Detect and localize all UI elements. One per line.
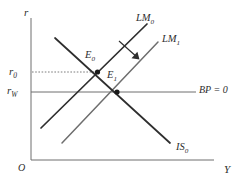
curve-label-lm0: LM0 xyxy=(136,13,154,26)
point-label-e1: E1 xyxy=(107,70,117,83)
curve-lm1-subscript: 1 xyxy=(177,39,181,47)
point-e1 xyxy=(114,89,119,94)
point-e1-subscript: 1 xyxy=(113,75,117,83)
y-tick-rw-subscript: W xyxy=(11,90,17,99)
is0-curve xyxy=(55,38,170,143)
bp-zero-label: BP = 0 xyxy=(199,85,228,95)
curve-lm1-base: LM xyxy=(162,33,177,44)
x-axis-label: Y xyxy=(224,164,230,175)
curve-is0-subscript: 0 xyxy=(185,147,189,155)
point-e0-subscript: 0 xyxy=(91,55,95,63)
is-lm-bp-diagram: r Y O r0 rW LM0 LM1 IS0 E0 E1 BP = 0 xyxy=(0,0,240,185)
y-tick-r0-subscript: 0 xyxy=(13,71,17,80)
curve-label-lm1: LM1 xyxy=(162,34,180,47)
y-axis-label: r xyxy=(24,7,28,18)
y-tick-label-rw: rW xyxy=(7,85,18,99)
y-tick-label-r0: r0 xyxy=(9,66,17,80)
curve-lm0-subscript: 0 xyxy=(151,18,155,26)
origin-label: O xyxy=(18,163,25,173)
point-label-e0: E0 xyxy=(85,50,95,63)
shift-arrow-icon xyxy=(119,41,140,60)
curve-lm0-base: LM xyxy=(136,12,151,23)
point-e0 xyxy=(95,69,100,74)
curve-label-is0: IS0 xyxy=(176,142,188,155)
curve-is0-base: IS xyxy=(176,141,185,152)
